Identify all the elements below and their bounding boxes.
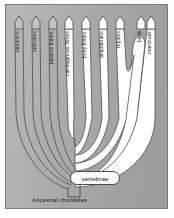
arrowhead-jawless-fishes xyxy=(49,16,57,29)
node-label-vertebrae: vertebrae xyxy=(70,171,120,185)
arrowhead-cartilaginous-fishes xyxy=(65,16,73,29)
arrowhead-reptiles xyxy=(116,16,124,29)
arrowhead-tunicates xyxy=(32,16,40,29)
branch-label-amphibians: amphibians xyxy=(99,31,104,83)
branch-label-bony-fishes: bony fishes xyxy=(82,31,87,83)
root-caption: Ancestral chordates xyxy=(32,197,87,203)
arrowhead-mammals xyxy=(147,16,155,29)
arrowhead-amphibians xyxy=(99,16,107,29)
branch-label-reptiles: reptiles xyxy=(116,31,121,83)
branch-label-mammals: mammals xyxy=(147,31,152,83)
branch-label-jawless-fishes: jawless fishes xyxy=(49,31,54,83)
branch-label-lancelets: lancelets xyxy=(15,31,20,83)
phylogenetic-tree-figure: lancelets tunicates jawless fishes carti… xyxy=(0,0,174,218)
branch-label-cartilaginous-fishes: cartilaginous fishes xyxy=(65,31,70,91)
diagram-panel: lancelets tunicates jawless fishes carti… xyxy=(5,4,168,209)
branch-label-birds: birds xyxy=(137,31,142,83)
arrowhead-bony-fishes xyxy=(82,16,90,29)
arrowhead-lancelets xyxy=(15,16,23,29)
arrowhead-birds xyxy=(137,16,145,29)
branch-label-tunicates: tunicates xyxy=(32,31,37,83)
arrowhead-group xyxy=(15,16,155,29)
